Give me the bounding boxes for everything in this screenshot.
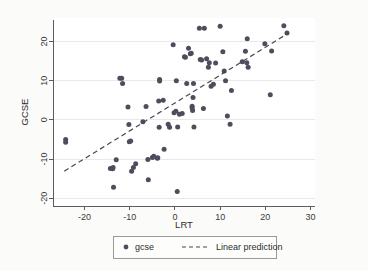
y-tick-label: -20: [39, 192, 49, 205]
scatter-point: [125, 104, 130, 109]
scatter-point: [145, 157, 150, 162]
scatter-point: [201, 106, 206, 111]
scatter-point: [174, 78, 179, 83]
scatter-point: [111, 165, 116, 170]
scatter-point: [197, 26, 202, 31]
scatter-point: [281, 23, 286, 28]
legend-marker-dot-icon: [124, 245, 129, 250]
scatter-point: [146, 177, 151, 182]
scatter-point: [202, 26, 207, 31]
scatter-point: [157, 79, 162, 84]
scatter-point: [268, 92, 273, 97]
scatter-point: [225, 113, 230, 118]
scatter-point: [190, 108, 195, 113]
scatter-point: [120, 81, 125, 86]
scatter-point: [269, 48, 274, 53]
scatter-point: [161, 98, 166, 103]
scatter-point: [220, 49, 225, 54]
scatter-point: [162, 147, 167, 152]
scatter-point: [167, 125, 172, 130]
y-axis-title: GCSE: [19, 99, 30, 126]
y-tick-label: 0: [39, 117, 49, 122]
scatter-point: [218, 24, 223, 29]
scatter-point: [191, 95, 196, 100]
legend-label-linear-prediction: Linear prediction: [216, 242, 283, 252]
scatter-point: [206, 65, 211, 70]
x-tick-label: 20: [260, 212, 270, 222]
scatter-point: [133, 161, 138, 166]
scatter-point: [207, 60, 212, 65]
scatter-point: [213, 61, 218, 66]
scatter-point: [171, 42, 176, 47]
scatter-point: [175, 189, 180, 194]
scatter-point: [119, 76, 124, 81]
chart-legend: gcse Linear prediction: [113, 236, 283, 258]
scatter-point: [246, 65, 251, 70]
scatter-point: [229, 88, 234, 93]
scatter-point: [111, 185, 116, 190]
scatter-point: [211, 82, 216, 87]
y-tick-label: -10: [39, 152, 49, 165]
scatter-point: [244, 60, 249, 65]
scatter-point: [155, 155, 160, 160]
x-axis-title: LRT: [175, 219, 193, 230]
scatter-point: [223, 78, 228, 83]
scatter-point: [114, 157, 119, 162]
x-tick-label: -20: [78, 212, 91, 222]
scatter-point: [126, 122, 131, 127]
scatter-point: [186, 46, 191, 51]
scatter-point: [191, 124, 196, 129]
scatter-plot-svg: -20-100102030 -20-1001020 LRT GCSE gcse …: [0, 0, 368, 271]
scatter-point: [183, 55, 188, 60]
scatter-point: [157, 125, 162, 130]
chart-figure: -20-100102030 -20-1001020 LRT GCSE gcse …: [0, 0, 368, 271]
scatter-point: [184, 81, 189, 86]
scatter-point: [63, 140, 68, 145]
scatter-point: [191, 81, 196, 86]
scatter-point: [144, 104, 149, 109]
scatter-point: [228, 122, 233, 127]
x-tick-label: 10: [215, 212, 225, 222]
scatter-point: [262, 41, 267, 46]
scatter-point: [128, 138, 133, 143]
scatter-point: [189, 51, 194, 56]
y-tick-label: 10: [39, 76, 49, 86]
x-tick-label: 30: [305, 212, 315, 222]
legend-label-gcse: gcse: [135, 242, 154, 252]
scatter-point: [156, 99, 161, 104]
scatter-point: [199, 57, 204, 62]
y-tick-label: 20: [39, 36, 49, 46]
scatter-point: [245, 36, 250, 41]
scatter-point: [180, 111, 185, 116]
x-tick-label: -10: [123, 212, 136, 222]
scatter-point: [175, 124, 180, 129]
scatter-point: [243, 49, 248, 54]
